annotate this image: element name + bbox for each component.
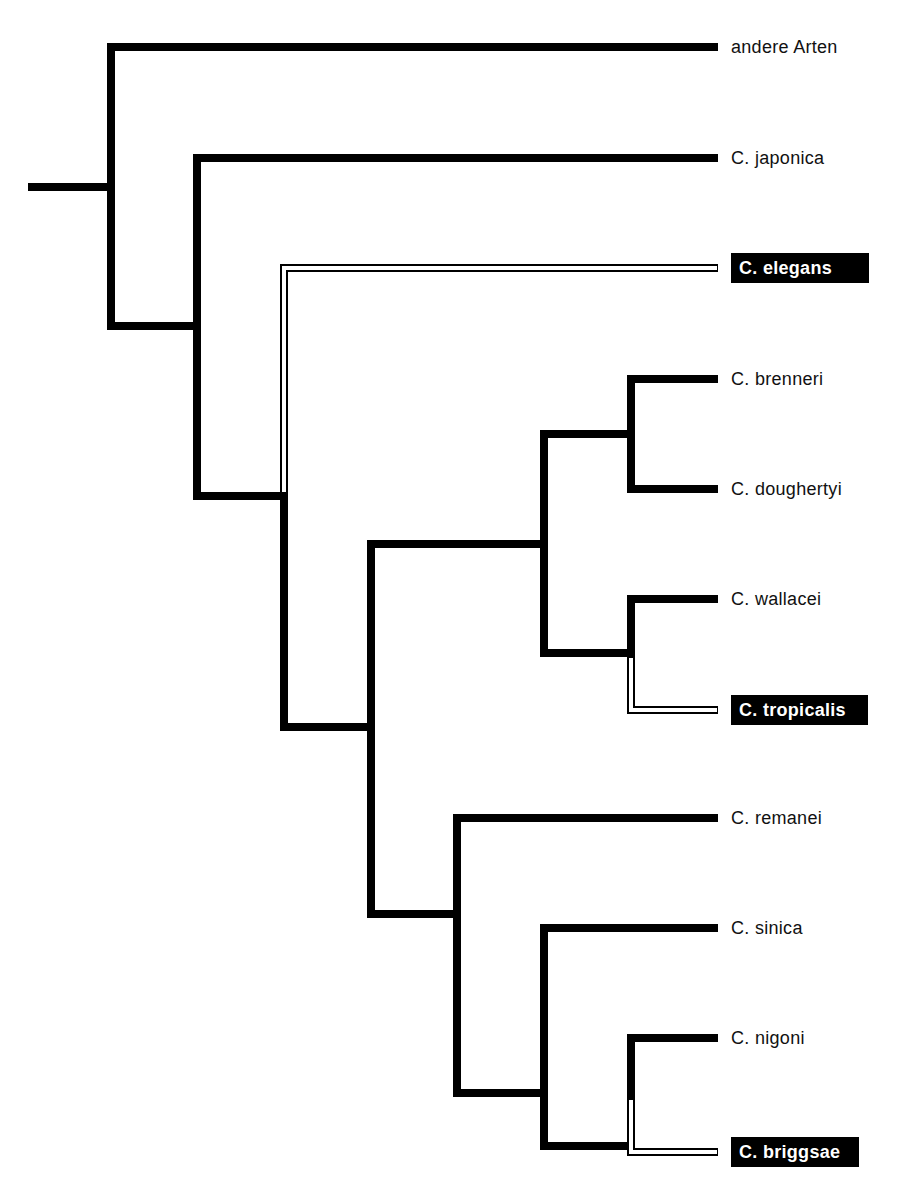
branch-remanei <box>457 818 718 914</box>
branch-tropicalis-highlighted <box>631 653 718 710</box>
branch-node-e-lower <box>544 544 631 653</box>
leaf-label-andere-arten: andere Arten <box>731 36 838 58</box>
branch-node-a-lower <box>111 187 197 326</box>
leaf-label-c-remanei: C. remanei <box>731 807 822 829</box>
branch-node-b-lower <box>197 326 284 496</box>
leaf-label-c-japonica: C. japonica <box>731 147 824 169</box>
branch-brenneri <box>631 379 718 434</box>
leaf-label-c-nigoni: C. nigoni <box>731 1027 805 1049</box>
branch-node-c-lower <box>284 492 371 727</box>
branch-node-h-lower <box>457 914 544 1093</box>
branch-wallacei <box>631 599 718 657</box>
leaf-label-c-doughertyi: C. doughertyi <box>731 478 842 500</box>
branch-node-e-upper <box>544 434 631 544</box>
branch-node-i-lower <box>544 1093 631 1146</box>
leaf-label-c-briggsae-highlighted: C. briggsae <box>731 1137 859 1167</box>
branch-andere-arten <box>111 47 718 187</box>
branch-doughertyi <box>631 434 718 489</box>
leaf-label-c-sinica: C. sinica <box>731 917 803 939</box>
branch-node-d-lower <box>371 727 457 914</box>
branch-nigoni <box>631 1038 718 1150</box>
leaf-label-c-tropicalis-highlighted: C. tropicalis <box>731 695 868 725</box>
leaf-label-c-brenneri: C. brenneri <box>731 368 823 390</box>
leaf-label-c-wallacei: C. wallacei <box>731 588 821 610</box>
branch-node-d-upper <box>371 544 544 727</box>
branch-japonica <box>197 158 718 326</box>
leaf-label-c-elegans-highlighted: C. elegans <box>731 253 869 283</box>
